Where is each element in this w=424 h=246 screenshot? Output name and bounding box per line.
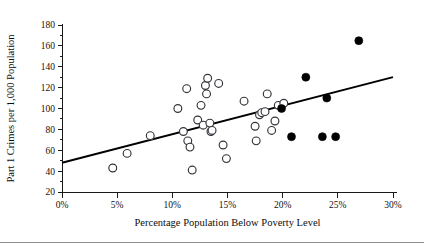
- data-point-filled: [318, 133, 326, 141]
- x-tick-label: 25%: [329, 200, 347, 210]
- y-tick-label: 20: [46, 187, 56, 197]
- data-point-open: [146, 132, 154, 140]
- data-point-open: [271, 117, 279, 125]
- data-point-open: [174, 105, 182, 113]
- data-point-open: [222, 155, 230, 163]
- x-tick-label: 5%: [111, 200, 124, 210]
- data-point-open: [203, 90, 211, 98]
- y-tick-label: 100: [41, 104, 56, 114]
- data-point-open: [206, 119, 214, 127]
- data-point-filled: [278, 105, 286, 113]
- y-tick-label: 180: [41, 20, 56, 30]
- data-point-open: [186, 143, 194, 151]
- x-axis-title: Percentage Population Below Poverty Leve…: [134, 217, 320, 228]
- x-tick-label: 30%: [384, 200, 402, 210]
- x-tick-label: 20%: [274, 200, 292, 210]
- data-point-open: [208, 127, 216, 135]
- scatter-plot-figure: 204060801001201401601800%5%10%15%20%25%3…: [0, 0, 424, 246]
- plot-canvas: 204060801001201401601800%5%10%15%20%25%3…: [0, 0, 424, 246]
- x-tick-label: 15%: [219, 200, 237, 210]
- data-point-open: [252, 137, 260, 145]
- x-tick-label: 0%: [56, 200, 69, 210]
- data-point-open: [188, 166, 196, 174]
- data-point-open: [183, 85, 191, 93]
- data-point-open: [215, 80, 223, 88]
- data-point-open: [204, 74, 212, 82]
- data-point-open: [261, 108, 269, 116]
- y-tick-label: 160: [41, 41, 56, 51]
- y-tick-label: 40: [46, 167, 56, 177]
- data-point-open: [263, 90, 271, 98]
- data-point-filled: [287, 133, 295, 141]
- data-point-open: [109, 164, 117, 172]
- data-point-filled: [332, 133, 340, 141]
- footer-divider: [0, 242, 424, 243]
- data-point-filled: [355, 37, 363, 45]
- data-point-open: [179, 128, 187, 136]
- data-point-open: [240, 97, 248, 105]
- regression-trend-line: [62, 77, 393, 163]
- data-point-open: [268, 127, 276, 135]
- data-point-filled: [323, 94, 331, 102]
- data-point-open: [251, 122, 259, 130]
- data-point-open: [219, 141, 227, 149]
- y-tick-label: 140: [41, 62, 56, 72]
- y-tick-label: 60: [46, 146, 56, 156]
- y-axis-title: Part 1 Crimes per 1,000 Population: [5, 34, 16, 183]
- data-point-open: [197, 101, 205, 109]
- data-point-filled: [302, 73, 310, 81]
- y-tick-label: 120: [41, 83, 56, 93]
- y-tick-label: 80: [46, 125, 56, 135]
- data-point-open: [123, 149, 131, 157]
- x-tick-label: 10%: [164, 200, 182, 210]
- data-point-open: [202, 82, 210, 90]
